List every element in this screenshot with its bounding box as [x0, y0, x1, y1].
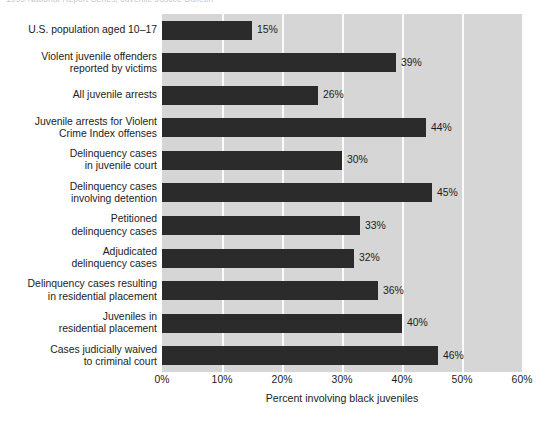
category-label: Delinquency cases in juvenile court — [0, 148, 157, 172]
category-label: Violent juvenile offenders reported by v… — [0, 51, 157, 75]
bar-value-label: 36% — [383, 285, 404, 297]
chart-row: Cases judicially waived to criminal cour… — [0, 339, 552, 372]
x-tick-label: 20% — [272, 374, 293, 385]
chart-row: U.S. population aged 10–1715% — [0, 14, 552, 47]
chart-row: Juveniles in residential placement40% — [0, 307, 552, 340]
x-tick-label: 0% — [154, 374, 169, 385]
bar-value-label: 46% — [443, 350, 464, 362]
bar — [162, 118, 426, 137]
bar — [162, 249, 354, 268]
bar-value-label: 39% — [401, 57, 422, 69]
bar — [162, 151, 342, 170]
bar — [162, 21, 252, 40]
chart-row: Delinquency cases resulting in residenti… — [0, 274, 552, 307]
category-label: Delinquency cases resulting in residenti… — [0, 278, 157, 302]
x-tick-label: 10% — [212, 374, 233, 385]
x-axis: 0%10%20%30%40%50%60% — [0, 374, 552, 392]
cut-off-caption-strip: 1999 National Report Series, Juvenile Ju… — [0, 0, 552, 9]
category-label: Juveniles in residential placement — [0, 311, 157, 335]
chart-row: Delinquency cases involving detention45% — [0, 177, 552, 210]
bar-value-label: 33% — [365, 220, 386, 232]
x-tick-label: 40% — [392, 374, 413, 385]
x-axis-title: Percent involving black juveniles — [162, 392, 522, 404]
bar-value-label: 40% — [407, 317, 428, 329]
bar-value-label: 44% — [431, 122, 452, 134]
x-tick-label: 50% — [452, 374, 473, 385]
x-tick-label: 60% — [512, 374, 533, 385]
bar-value-label: 32% — [359, 252, 380, 264]
bar — [162, 314, 402, 333]
bar — [162, 281, 378, 300]
bar-value-label: 30% — [347, 154, 368, 166]
chart-row: Delinquency cases in juvenile court30% — [0, 144, 552, 177]
chart-row: Juvenile arrests for Violent Crime Index… — [0, 112, 552, 145]
bar-value-label: 15% — [257, 24, 278, 36]
bar — [162, 53, 396, 72]
category-label: Cases judicially waived to criminal cour… — [0, 344, 157, 368]
category-label: All juvenile arrests — [0, 89, 157, 101]
category-label: U.S. population aged 10–17 — [0, 24, 157, 36]
category-label: Juvenile arrests for Violent Crime Index… — [0, 116, 157, 140]
bar — [162, 86, 318, 105]
chart-row: Adjudicated delinquency cases32% — [0, 242, 552, 275]
chart-row: Petitioned delinquency cases33% — [0, 209, 552, 242]
chart-row: All juvenile arrests26% — [0, 79, 552, 112]
chart-row: Violent juvenile offenders reported by v… — [0, 47, 552, 80]
bar-chart-figure: 1999 National Report Series, Juvenile Ju… — [0, 0, 552, 423]
bar — [162, 216, 360, 235]
bar — [162, 346, 438, 365]
bar — [162, 183, 432, 202]
x-tick-label: 30% — [332, 374, 353, 385]
bar-value-label: 45% — [437, 187, 458, 199]
category-label: Adjudicated delinquency cases — [0, 246, 157, 270]
category-label: Delinquency cases involving detention — [0, 181, 157, 205]
category-label: Petitioned delinquency cases — [0, 213, 157, 237]
bar-value-label: 26% — [323, 89, 344, 101]
cut-off-caption-text: 1999 National Report Series, Juvenile Ju… — [6, 0, 213, 4]
